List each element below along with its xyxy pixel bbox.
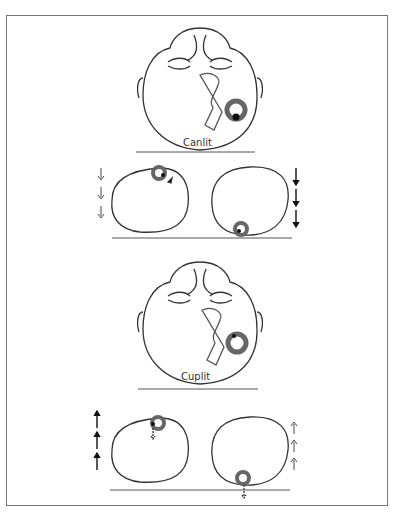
semicircular-canals-2 — [202, 308, 246, 365]
head-side-right-1 — [212, 167, 288, 235]
arrows-down-right-1 — [293, 168, 299, 227]
head-side-right-2 — [212, 417, 288, 498]
arrows-up-right-2 — [291, 422, 297, 470]
label-cuplit: Cuplit — [181, 371, 210, 382]
head-top-view-2 — [138, 262, 263, 384]
diagram-canvas — [0, 0, 397, 521]
arrows-down-left-1 — [98, 168, 104, 218]
arrows-up-left-2 — [94, 411, 100, 470]
head-side-left-1 — [112, 167, 189, 232]
head-side-left-2 — [112, 417, 189, 482]
head-top-view-1 — [138, 28, 263, 150]
label-canlit: Canlit — [183, 137, 212, 148]
semicircular-canals-1 — [200, 73, 245, 130]
